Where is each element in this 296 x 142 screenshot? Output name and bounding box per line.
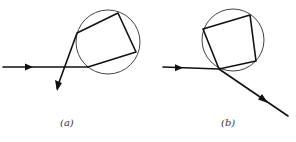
circle-a bbox=[76, 10, 140, 74]
panel-b bbox=[163, 9, 288, 116]
arrow-head-incoming-a bbox=[25, 64, 33, 71]
arrow-head-incoming-b bbox=[175, 64, 183, 71]
arrow-head-outgoing-a bbox=[55, 80, 62, 91]
caption-b: (b) bbox=[221, 117, 235, 128]
internal-path-a bbox=[57, 13, 136, 88]
incoming-ray-b bbox=[163, 67, 219, 69]
diagram-canvas bbox=[0, 0, 296, 142]
caption-a: (a) bbox=[60, 117, 74, 128]
panel-a bbox=[3, 10, 140, 91]
arrow-head-outgoing-b bbox=[258, 94, 268, 103]
